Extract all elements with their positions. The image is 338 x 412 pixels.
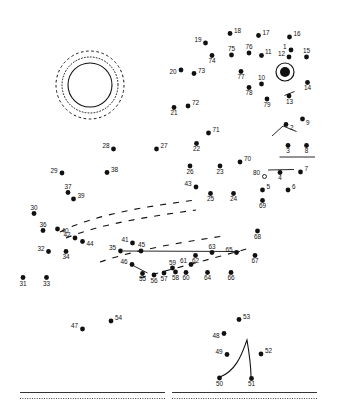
dot-marker-47[interactable]: [80, 327, 85, 332]
dot-marker-43[interactable]: [194, 185, 199, 190]
dot-marker-70[interactable]: [238, 160, 243, 165]
dot-label-47: 47: [71, 322, 79, 329]
dot-marker-2[interactable]: [284, 122, 289, 127]
dot-marker-30[interactable]: [32, 211, 37, 216]
dot-marker-80[interactable]: [263, 175, 267, 179]
dot-marker-71[interactable]: [206, 131, 211, 136]
ring-dotted-middle: [62, 57, 118, 113]
dot-marker-5[interactable]: [260, 188, 265, 193]
dot-label-24: 24: [230, 195, 238, 202]
dot-label-30: 30: [30, 204, 38, 211]
dot-marker-41[interactable]: [130, 241, 135, 246]
dot-label-80: 80: [253, 169, 261, 176]
dot-marker-29[interactable]: [60, 171, 65, 176]
dot-label-29: 29: [50, 167, 58, 174]
dot-marker-27[interactable]: [154, 147, 159, 152]
dot-label-1: 1: [283, 43, 287, 50]
dot-marker-20[interactable]: [179, 68, 184, 73]
dot-marker-9[interactable]: [300, 117, 305, 122]
dot-label-26: 26: [186, 168, 194, 175]
dot-label-2: 2: [290, 124, 294, 131]
dot-label-33: 33: [43, 280, 51, 287]
curve-between-50-and-51: [220, 340, 251, 377]
dashed-arc-3: [100, 236, 224, 262]
dot-label-59: 59: [169, 259, 177, 266]
dot-marker-38[interactable]: [105, 170, 110, 175]
dashed-arc-2: [66, 210, 196, 238]
dot-marker-49[interactable]: [225, 352, 230, 357]
dot-label-31: 31: [19, 280, 27, 287]
dot-marker-36[interactable]: [41, 228, 46, 233]
dot-marker-46[interactable]: [130, 262, 135, 267]
dot-label-57: 57: [160, 275, 168, 282]
dot-marker-40[interactable]: [55, 227, 60, 232]
curve-50-51: [220, 340, 251, 377]
dot-label-42: 42: [63, 231, 71, 238]
dot-marker-72[interactable]: [186, 104, 191, 109]
dot-marker-7[interactable]: [298, 170, 303, 175]
dot-marker-15[interactable]: [304, 55, 309, 60]
dot-label-70: 70: [244, 155, 252, 162]
dot-label-11: 11: [265, 48, 272, 55]
dot-marker-19[interactable]: [203, 41, 208, 46]
dot-label-39: 39: [78, 192, 86, 199]
dot-label-17: 17: [263, 29, 271, 36]
dot-label-18: 18: [234, 27, 242, 34]
puzzle-page: 1234567891011121314151617181920212223242…: [0, 0, 338, 412]
dot-label-61: 61: [180, 257, 188, 264]
ring-with-filled-center: [276, 63, 294, 81]
dot-marker-52[interactable]: [259, 352, 264, 357]
dot-marker-32[interactable]: [46, 249, 51, 254]
dot-marker-44[interactable]: [80, 239, 85, 244]
dot-label-9: 9: [306, 119, 310, 126]
dot-label-15: 15: [303, 47, 311, 54]
dot-label-72: 72: [192, 99, 200, 106]
dot-label-37: 37: [64, 183, 72, 190]
dot-marker-6[interactable]: [286, 188, 291, 193]
dot-marker-37[interactable]: [66, 190, 71, 195]
dot-marker-53[interactable]: [237, 317, 242, 322]
dot-label-66: 66: [227, 274, 235, 281]
dot-marker-42[interactable]: [73, 236, 78, 241]
dot-marker-1[interactable]: [289, 48, 294, 53]
dot-label-5: 5: [267, 183, 271, 190]
dot-label-19: 19: [194, 36, 202, 43]
dot-marker-48[interactable]: [222, 331, 227, 336]
dot-marker-18[interactable]: [228, 31, 233, 36]
dot-marker-39[interactable]: [71, 197, 76, 202]
dot-label-78: 78: [245, 89, 253, 96]
dot-label-41: 41: [121, 236, 129, 243]
dot-marker-11[interactable]: [259, 53, 264, 58]
dot-marker-76[interactable]: [247, 51, 252, 56]
dot-marker-17[interactable]: [256, 33, 261, 38]
dot-marker-63[interactable]: [210, 250, 215, 255]
dot-marker-10[interactable]: [259, 82, 264, 87]
dot-marker-12[interactable]: [287, 55, 292, 60]
dot-label-49: 49: [215, 348, 223, 355]
dot-label-58: 58: [172, 274, 180, 281]
dot-marker-59[interactable]: [170, 266, 175, 271]
dot-marker-65[interactable]: [234, 250, 239, 255]
dot-label-74: 74: [208, 57, 216, 64]
dot-label-77: 77: [237, 73, 245, 80]
dot-marker-16[interactable]: [287, 35, 292, 40]
dot-marker-35[interactable]: [118, 249, 123, 254]
dot-label-65: 65: [225, 246, 233, 253]
dot-marker-73[interactable]: [192, 71, 197, 76]
dot-label-3: 3: [286, 147, 290, 154]
dot-label-73: 73: [198, 67, 206, 74]
guide-stroke-2: [272, 126, 283, 136]
dot-marker-45[interactable]: [139, 249, 144, 254]
dot-marker-28[interactable]: [111, 147, 116, 152]
ring-solid-inner: [68, 63, 112, 107]
dot-label-50: 50: [216, 380, 224, 387]
dot-label-69: 69: [259, 202, 267, 209]
footer-rules-group: [20, 393, 317, 399]
dot-label-79: 79: [263, 101, 271, 108]
dot-label-75: 75: [228, 45, 236, 52]
dot-label-44: 44: [87, 240, 95, 247]
dot-label-76: 76: [245, 43, 253, 50]
connect-the-dots-canvas: 1234567891011121314151617181920212223242…: [0, 0, 338, 412]
dot-marker-75[interactable]: [229, 53, 234, 58]
dot-marker-54[interactable]: [109, 319, 114, 324]
